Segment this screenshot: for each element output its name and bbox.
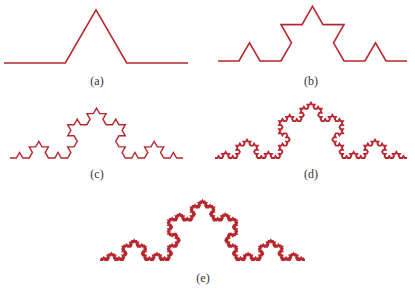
koch-figure — [0, 0, 415, 288]
label-a: (a) — [90, 74, 103, 89]
label-b: (b) — [304, 74, 318, 89]
koch-curve-a — [4, 10, 188, 63]
label-e: (e) — [196, 271, 209, 286]
koch-curve-c — [10, 108, 183, 158]
koch-curve-b — [218, 6, 407, 61]
label-c: (c) — [90, 167, 103, 182]
label-d: (d) — [304, 167, 318, 182]
koch-curve-e — [100, 201, 305, 260]
koch-curve-d — [215, 103, 407, 158]
